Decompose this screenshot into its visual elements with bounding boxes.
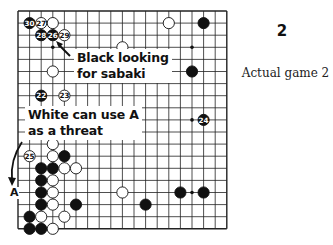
point-a-label: A <box>10 187 19 199</box>
threat-line-1: White can use A <box>28 107 139 123</box>
threat-arrow <box>12 142 22 180</box>
white-stone: 29 <box>59 30 70 41</box>
figure-number: 2 <box>262 22 302 40</box>
move-number: 25 <box>25 152 35 161</box>
sabaki-line-1: Black looking <box>77 50 169 66</box>
white-stone <box>36 211 47 222</box>
black-stone <box>24 223 35 234</box>
white-stone: 23 <box>59 90 70 101</box>
black-stone <box>36 199 47 210</box>
white-stone <box>163 18 174 29</box>
black-stone: 24 <box>198 114 209 125</box>
white-stone <box>47 199 58 210</box>
white-stone <box>47 223 58 234</box>
black-stone <box>59 151 70 162</box>
star-point <box>190 191 194 195</box>
black-stone <box>36 187 47 198</box>
black-stone <box>36 223 47 234</box>
white-stone <box>47 66 58 77</box>
figure-caption: Actual game 2 <box>238 66 333 80</box>
white-stone: 25 <box>24 151 35 162</box>
black-stone <box>47 163 58 174</box>
black-stone <box>186 66 197 77</box>
white-stone <box>59 163 70 174</box>
move-number: 23 <box>59 91 69 100</box>
black-stone: 26 <box>47 30 58 41</box>
threat-arrowhead <box>8 177 16 186</box>
sabaki-annotation: Black looking for sabaki <box>74 49 172 83</box>
move-number: 26 <box>48 31 58 40</box>
star-point <box>51 46 55 50</box>
move-number: 29 <box>59 31 69 40</box>
black-stone <box>175 187 186 198</box>
move-number: 30 <box>25 19 35 28</box>
black-stone <box>24 211 35 222</box>
black-stone: 30 <box>24 18 35 29</box>
black-stone <box>70 199 81 210</box>
sabaki-line-2: for sabaki <box>77 66 169 82</box>
black-stone <box>36 163 47 174</box>
black-stone <box>140 199 151 210</box>
white-stone <box>47 187 58 198</box>
black-stone <box>198 18 209 29</box>
white-stone: 27 <box>36 18 47 29</box>
white-stone <box>59 211 70 222</box>
white-stone <box>47 151 58 162</box>
star-point <box>190 118 194 122</box>
threat-line-2: as a threat <box>28 123 139 139</box>
star-point <box>190 46 194 50</box>
threat-annotation: White can use A as a threat <box>25 106 142 140</box>
white-stone <box>117 187 128 198</box>
move-number: 28 <box>36 31 46 40</box>
black-stone: 28 <box>36 30 47 41</box>
move-number: 24 <box>199 116 209 125</box>
black-stone: 22 <box>36 90 47 101</box>
white-stone <box>47 139 58 150</box>
white-stone <box>70 163 81 174</box>
move-number: 27 <box>36 19 46 28</box>
black-stone <box>198 187 209 198</box>
white-stone <box>47 175 58 186</box>
black-stone <box>36 175 47 186</box>
white-stone <box>47 18 58 29</box>
move-number: 22 <box>36 91 46 100</box>
